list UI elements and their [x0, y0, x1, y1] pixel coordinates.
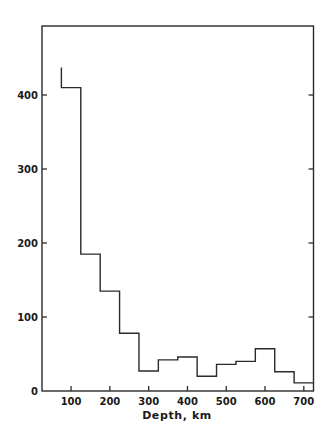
x-tick-label: 700 [293, 396, 314, 407]
x-axis-ticks: 100200300400500600700 [61, 386, 315, 407]
y-tick-label: 400 [17, 90, 38, 101]
x-axis-title: Depth, km [142, 409, 212, 422]
y-tick-label: 100 [17, 312, 38, 323]
plot-frame [42, 26, 314, 391]
x-tick-label: 200 [99, 396, 120, 407]
y-tick-label: 0 [31, 386, 38, 397]
histogram-step-line [61, 68, 313, 383]
y-tick-label: 200 [17, 238, 38, 249]
depth-histogram-chart: 0100200300400 100200300400500600700 Dept… [0, 0, 332, 443]
x-tick-label: 100 [61, 396, 82, 407]
y-tick-label: 300 [17, 164, 38, 175]
x-tick-label: 300 [138, 396, 159, 407]
y-axis-ticks: 0100200300400 [17, 90, 313, 397]
x-tick-label: 400 [177, 396, 198, 407]
x-tick-label: 500 [216, 396, 237, 407]
x-tick-label: 600 [255, 396, 276, 407]
